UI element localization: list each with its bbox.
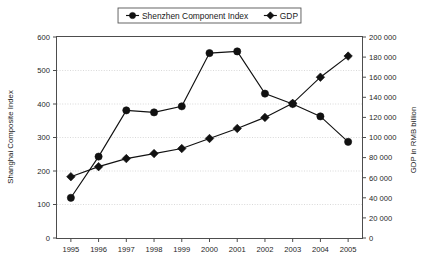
chart-legend: Shenzhen Component IndexGDP: [118, 8, 301, 23]
data-point-circle: [345, 138, 352, 145]
left-axis-tick-label: 400: [37, 100, 50, 109]
data-point-circle: [123, 107, 130, 114]
right-axis-tick-label: 40 000: [369, 194, 392, 203]
x-axis-tick-label: 1999: [173, 245, 190, 254]
right-axis-tick-label: 140 000: [369, 93, 396, 102]
data-point-circle: [67, 194, 74, 201]
right-axis-tick-label: 160 000: [369, 73, 396, 82]
data-point-circle: [206, 49, 213, 56]
left-axis-tick-label: 600: [37, 33, 50, 42]
x-axis-tick-label: 2003: [284, 245, 301, 254]
x-axis-tick-label: 2004: [312, 245, 329, 254]
right-axis-tick-label: 20 000: [369, 214, 392, 223]
left-axis-tick-label: 300: [37, 133, 50, 142]
x-axis-tick-label: 2001: [229, 245, 246, 254]
right-axis-tick-label: 0: [369, 234, 373, 243]
data-point-circle: [95, 153, 102, 160]
data-point-circle: [234, 48, 241, 55]
x-axis-tick-label: 2005: [340, 245, 357, 254]
chart-container: Shenzhen Component IndexGDP 010020030040…: [0, 0, 427, 266]
right-axis-tick-label: 100 000: [369, 133, 396, 142]
right-axis-tick-label: 200 000: [369, 33, 396, 42]
x-axis-tick-label: 2002: [257, 245, 274, 254]
x-axis-tick-label: 1998: [146, 245, 163, 254]
left-axis-title: Shanghai Composite Index: [6, 90, 15, 184]
right-axis-title: GDP in RMB billion: [409, 107, 418, 174]
right-axis-tick-label: 120 000: [369, 113, 396, 122]
x-axis-tick-label: 1996: [90, 245, 107, 254]
data-point-circle: [317, 113, 324, 120]
legend-item-label: GDP: [280, 11, 299, 21]
x-axis-tick-label: 1997: [118, 245, 135, 254]
line-chart: Shenzhen Component IndexGDP 010020030040…: [0, 0, 427, 266]
left-axis-tick-label: 100: [37, 200, 50, 209]
right-axis-tick-label: 60 000: [369, 174, 392, 183]
data-point-circle: [129, 12, 135, 18]
left-axis-tick-label: 0: [46, 234, 50, 243]
data-point-circle: [150, 109, 157, 116]
right-axis-tick-label: 180 000: [369, 53, 396, 62]
legend-item-label: Shenzhen Component Index: [142, 11, 249, 21]
left-axis-tick-label: 500: [37, 66, 50, 75]
data-point-circle: [261, 90, 268, 97]
right-axis-tick-label: 80 000: [369, 153, 392, 162]
left-axis-tick-label: 200: [37, 167, 50, 176]
legend-item[interactable]: Shenzhen Component Index: [126, 11, 249, 21]
data-point-circle: [178, 103, 185, 110]
x-axis-tick-label: 1995: [62, 245, 79, 254]
x-axis-tick-label: 2000: [201, 245, 218, 254]
